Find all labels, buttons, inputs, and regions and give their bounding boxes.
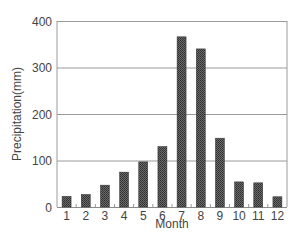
bar [196,49,205,207]
x-axis-title: Month [155,217,188,231]
x-tick-label: 5 [140,209,147,223]
x-tick-label: 1 [63,209,70,223]
x-tick-label: 8 [197,209,204,223]
bar [139,162,148,207]
x-tick-label: 9 [217,209,224,223]
precipitation-bar-chart: 123456789101112 0100200300400 Month Prec… [0,0,302,250]
bar-series [62,37,282,207]
x-tick-label: 10 [232,209,246,223]
y-axis-ticks: 0100200300400 [32,15,52,215]
y-tick-label: 100 [32,154,52,168]
x-tick-label: 2 [82,209,89,223]
y-tick-label: 400 [32,15,52,29]
bar [254,183,263,207]
bar [100,185,109,207]
x-tick-label: 11 [252,209,265,223]
gridlines [57,22,287,208]
y-axis-title: Precipitation(mm) [10,67,24,161]
x-tick-label: 12 [271,209,285,223]
bar [215,138,224,207]
bar [235,182,244,207]
y-tick-label: 0 [45,201,52,215]
y-tick-label: 200 [32,108,52,122]
bar [177,37,186,207]
bar [158,147,167,207]
bar [120,172,129,207]
x-tick-label: 4 [121,209,128,223]
bar [81,194,90,207]
bar [62,196,71,207]
x-tick-label: 3 [102,209,109,223]
bar [273,197,282,207]
y-tick-label: 300 [32,61,52,75]
